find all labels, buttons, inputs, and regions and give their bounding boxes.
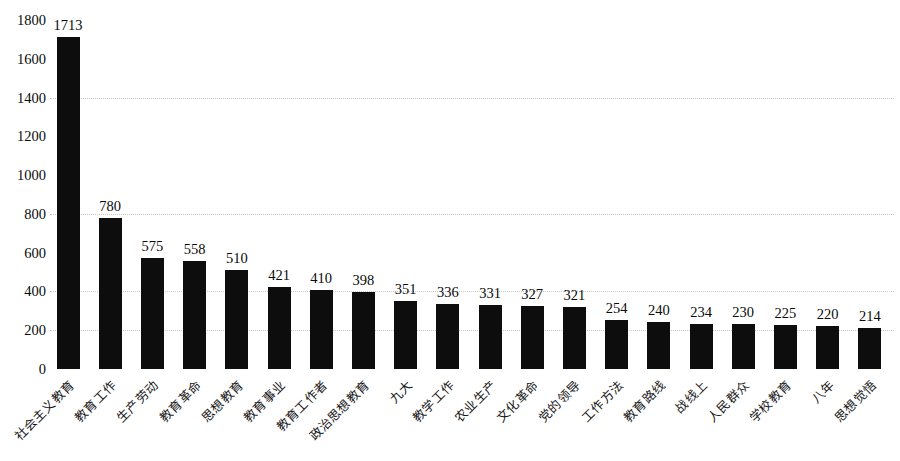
bar-group: 327文化革命 (521, 0, 544, 461)
bar-value-label: 398 (353, 273, 375, 288)
x-axis-category-label: 九大 (387, 379, 414, 406)
bar-group: 780教育工作 (99, 0, 122, 461)
bar-value-label: 254 (606, 301, 628, 316)
bar-value-label: 421 (268, 268, 290, 283)
bar-value-label: 510 (226, 251, 248, 266)
y-axis-tick-label: 1000 (2, 168, 46, 183)
bar (352, 292, 375, 369)
bar (732, 324, 755, 369)
x-axis-category-label: 八年 (809, 379, 836, 406)
x-axis-category-label: 战线上 (673, 379, 709, 415)
bar (57, 37, 80, 369)
bar-value-label: 1713 (54, 18, 83, 33)
x-axis-category-label: 思想觉悟 (833, 379, 879, 425)
bar-group: 321党的领导 (563, 0, 586, 461)
gridline (50, 98, 894, 99)
x-axis-category-label: 思想教育 (200, 379, 246, 425)
bar (816, 326, 839, 369)
y-axis-tick-label: 200 (2, 323, 46, 338)
bar-group: 510思想教育 (225, 0, 248, 461)
bar-value-label: 234 (690, 305, 712, 320)
bar-group: 1713社会主义教育 (57, 0, 80, 461)
gridline (50, 330, 894, 331)
bar-group: 230人民群众 (732, 0, 755, 461)
bar (647, 322, 670, 369)
y-axis-tick-label: 800 (2, 207, 46, 222)
bar (310, 290, 333, 369)
x-axis-category-label: 教学工作 (411, 379, 457, 425)
bar (99, 218, 122, 369)
bar (268, 287, 291, 369)
bar (521, 306, 544, 369)
bar-value-label: 230 (732, 305, 754, 320)
bar-group: 240教育路线 (647, 0, 670, 461)
bar-group: 234战线上 (690, 0, 713, 461)
bar-value-label: 336 (437, 285, 459, 300)
y-axis-tick-label: 1200 (2, 129, 46, 144)
bar-group: 214思想觉悟 (858, 0, 881, 461)
bar (479, 305, 502, 369)
bar-value-label: 351 (395, 282, 417, 297)
plot-area: 1713社会主义教育780教育工作575生产劳动558教育革命510思想教育42… (50, 0, 900, 461)
x-axis-category-label: 文化革命 (495, 379, 541, 425)
bar-value-label: 225 (775, 306, 797, 321)
x-axis-category-label: 生产劳动 (116, 379, 162, 425)
x-axis-category-label: 教育革命 (158, 379, 204, 425)
bar (563, 307, 586, 369)
bar (394, 301, 417, 369)
bar-value-label: 575 (142, 239, 164, 254)
y-axis-tick-label: 1600 (2, 52, 46, 67)
bar-value-label: 331 (479, 286, 501, 301)
bar (858, 328, 881, 369)
y-axis: 020040060080010001200140016001800 (0, 0, 46, 461)
bar-group: 351九大 (394, 0, 417, 461)
x-axis-category-label: 农业生产 (453, 379, 499, 425)
bar-chart: 020040060080010001200140016001800 1713社会… (0, 0, 900, 461)
y-axis-tick-label: 400 (2, 284, 46, 299)
bar (141, 258, 164, 369)
bar-group: 220八年 (816, 0, 839, 461)
bar-group: 410教育工作者 (310, 0, 333, 461)
bar-group: 575生产劳动 (141, 0, 164, 461)
gridline (50, 214, 894, 215)
bar-group: 225学校教育 (774, 0, 797, 461)
bar-value-label: 410 (310, 271, 332, 286)
bar-value-label: 240 (648, 303, 670, 318)
x-axis-category-label: 教育工作 (73, 379, 119, 425)
bar (436, 304, 459, 369)
bar-group: 331农业生产 (479, 0, 502, 461)
bar (225, 270, 248, 369)
bar (605, 320, 628, 369)
bar (690, 324, 713, 369)
bar-value-label: 321 (564, 288, 586, 303)
bar-value-label: 780 (99, 199, 121, 214)
y-axis-tick-label: 600 (2, 245, 46, 260)
y-axis-tick-label: 1400 (2, 90, 46, 105)
x-axis-category-label: 人民群众 (706, 379, 752, 425)
y-axis-tick-label: 1800 (2, 13, 46, 28)
bar-group: 336教学工作 (436, 0, 459, 461)
bar-group: 421教育事业 (268, 0, 291, 461)
bar (774, 325, 797, 369)
bar-value-label: 558 (184, 242, 206, 257)
x-axis-category-label: 党的领导 (538, 379, 584, 425)
bar (183, 261, 206, 369)
y-axis-tick-label: 0 (2, 362, 46, 377)
gridline (50, 291, 894, 292)
bar-value-label: 214 (859, 309, 881, 324)
bar-value-label: 327 (521, 287, 543, 302)
bar-group: 398政治思想教育 (352, 0, 375, 461)
x-axis-category-label: 学校教育 (749, 379, 795, 425)
bar-value-label: 220 (817, 307, 839, 322)
x-axis-category-label: 工作方法 (580, 379, 626, 425)
x-axis-category-label: 教育路线 (622, 379, 668, 425)
bar-group: 254工作方法 (605, 0, 628, 461)
bar-group: 558教育革命 (183, 0, 206, 461)
